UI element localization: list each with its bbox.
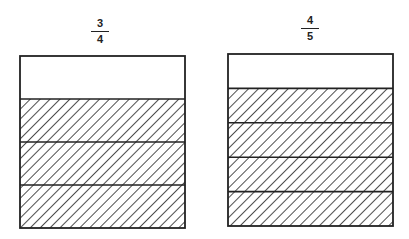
fraction-box-right — [228, 54, 393, 226]
fraction-box-left — [20, 56, 185, 228]
shaded-region — [20, 99, 185, 228]
fraction-diagrams — [0, 0, 409, 239]
